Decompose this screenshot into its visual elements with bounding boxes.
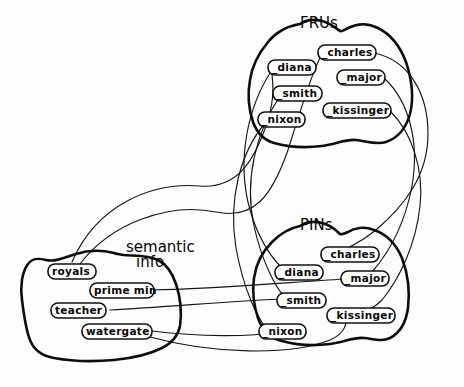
node-shape-frus-nixon[interactable] [258,112,305,127]
node-shape-pins-charles[interactable] [321,247,379,262]
node-shape-frus-kissinger[interactable] [323,103,391,118]
diagram-canvas: FRUs PINs semantic info _charles _diana … [0,0,464,387]
node-shape-sem-royals[interactable] [48,264,96,279]
node-shape-pins-diana[interactable] [275,265,323,280]
node-shape-sem-prime-min[interactable] [90,283,154,298]
node-shape-frus-charles[interactable] [318,45,376,60]
node-shape-frus-diana[interactable] [268,60,316,75]
node-shape-pins-nixon[interactable] [259,324,306,339]
node-shape-layer [48,45,395,339]
node-shape-pins-major[interactable] [341,271,389,286]
node-shape-pins-kissinger[interactable] [327,308,395,323]
edge-frus-nixon-to-pins-nixon [234,122,266,328]
edge-teacher-to-pins-smith [110,299,286,310]
edge-layer [72,53,428,351]
node-shape-frus-major[interactable] [337,70,385,85]
node-shape-frus-smith[interactable] [273,86,322,101]
node-shape-sem-teacher[interactable] [51,303,106,318]
node-shape-sem-watergate[interactable] [82,324,152,339]
diagram-svg [0,0,464,387]
node-shape-pins-smith[interactable] [277,293,326,308]
